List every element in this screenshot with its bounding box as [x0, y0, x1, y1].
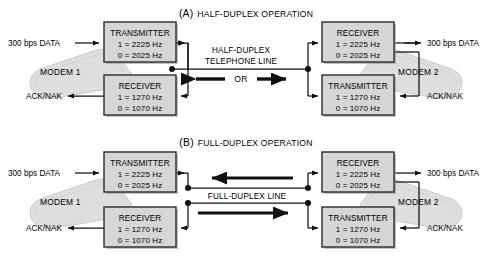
box-a-rx-left-mark: 1 = 1270 Hz — [118, 93, 162, 102]
box-a-tx-right-name: TRANSMITTER — [328, 82, 387, 91]
label-b-modem2: MODEM 2 — [398, 197, 439, 207]
box-b-tx-right-name: TRANSMITTER — [328, 214, 387, 223]
modem-duplex-diagram: (A)HALF-DUPLEX OPERATION — [0, 0, 492, 261]
label-a-modem1: MODEM 1 — [40, 67, 81, 77]
link-label-a-line1: HALF-DUPLEX — [212, 46, 270, 55]
box-b-tx-left-mark: 1 = 2225 Hz — [118, 170, 162, 179]
label-b-left-output: ACK/NAK — [26, 224, 62, 233]
box-b-tx-left-name: TRANSMITTER — [110, 159, 169, 168]
box-b-rx-right-name: RECEIVER — [337, 159, 380, 168]
box-b-rx-left-name: RECEIVER — [119, 214, 162, 223]
label-b-right-output: 300 bps DATA — [427, 169, 480, 178]
label-a-right-output: 300 bps DATA — [427, 39, 480, 48]
box-a-rx-right-space: 0 = 2025 Hz — [336, 51, 380, 60]
box-b-tx-right-space: 0 = 1070 Hz — [336, 236, 380, 245]
label-b-left-input: 300 bps DATA — [8, 169, 61, 178]
box-a-receiver-right: RECEIVER 1 = 2225 Hz 0 = 2025 Hz — [322, 22, 396, 64]
box-a-rx-right-mark: 1 = 2225 Hz — [336, 40, 380, 49]
box-a-tx-left-space: 0 = 2025 Hz — [118, 51, 162, 60]
box-a-rx-left-name: RECEIVER — [119, 82, 162, 91]
box-b-receiver-left: RECEIVER 1 = 1270 Hz 0 = 1070 Hz — [104, 207, 178, 249]
junction-dot-left-bottom-b — [185, 200, 191, 206]
box-b-tx-right-mark: 1 = 1270 Hz — [336, 225, 380, 234]
box-b-rx-left-mark: 1 = 1270 Hz — [118, 225, 162, 234]
box-b-transmitter-left: TRANSMITTER 1 = 2225 Hz 0 = 2025 Hz — [104, 152, 178, 194]
label-b-right-input: ACK/NAK — [427, 224, 463, 233]
box-b-rx-right-mark: 1 = 2225 Hz — [336, 170, 380, 179]
box-a-receiver-left: RECEIVER 1 = 1270 Hz 0 = 1070 Hz — [104, 75, 178, 117]
junction-dot-left-a — [169, 66, 175, 72]
junction-dot-left-top-b — [185, 185, 191, 191]
box-b-rx-left-space: 0 = 1070 Hz — [118, 236, 162, 245]
box-b-transmitter-right: TRANSMITTER 1 = 1270 Hz 0 = 1070 Hz — [322, 207, 396, 249]
section-b-title: (B)FULL-DUPLEX OPERATION — [179, 137, 312, 148]
box-a-tx-left-name: TRANSMITTER — [110, 29, 169, 38]
diagram-canvas: (A)HALF-DUPLEX OPERATION — [0, 0, 492, 261]
box-a-tx-left-mark: 1 = 2225 Hz — [118, 40, 162, 49]
box-b-rx-right-space: 0 = 2025 Hz — [336, 181, 380, 190]
box-b-tx-left-space: 0 = 2025 Hz — [118, 181, 162, 190]
label-a-left-output: ACK/NAK — [26, 92, 62, 101]
box-a-transmitter-left: TRANSMITTER 1 = 2225 Hz 0 = 2025 Hz — [104, 22, 178, 64]
section-a-title: (A)HALF-DUPLEX OPERATION — [179, 8, 313, 19]
box-a-tx-right-space: 0 = 1070 Hz — [336, 104, 380, 113]
link-label-a-line2: TELEPHONE LINE — [205, 57, 278, 66]
box-a-rx-right-name: RECEIVER — [337, 29, 380, 38]
junction-dot-right-a — [305, 66, 311, 72]
junction-dot-right-top-b — [305, 185, 311, 191]
or-label-a: OR — [234, 74, 247, 84]
box-a-transmitter-right: TRANSMITTER 1 = 1270 Hz 0 = 1070 Hz — [322, 75, 396, 117]
label-b-modem1: MODEM 1 — [40, 197, 81, 207]
label-a-modem2: MODEM 2 — [398, 67, 439, 77]
box-b-receiver-right: RECEIVER 1 = 2225 Hz 0 = 2025 Hz — [322, 152, 396, 194]
box-a-rx-left-space: 0 = 1070 Hz — [118, 104, 162, 113]
label-a-left-input: 300 bps DATA — [8, 39, 61, 48]
junction-dot-right-bottom-b — [305, 200, 311, 206]
link-label-b: FULL-DUPLEX LINE — [208, 192, 287, 201]
box-a-tx-right-mark: 1 = 1270 Hz — [336, 93, 380, 102]
label-a-right-input: ACK/NAK — [427, 92, 463, 101]
